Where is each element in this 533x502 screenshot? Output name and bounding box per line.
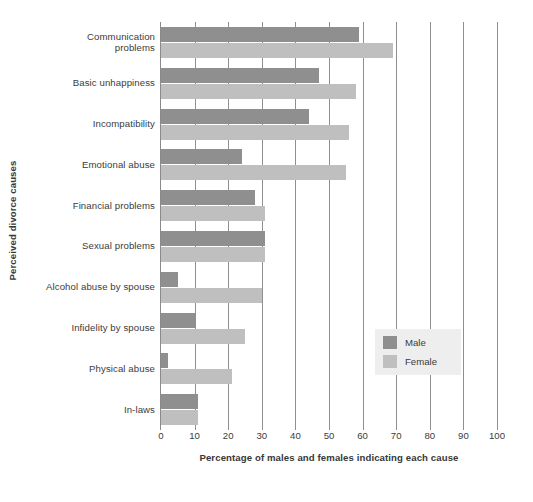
category-label-5: Sexual problems [22, 240, 155, 252]
legend-item-female[interactable]: Female [383, 352, 461, 371]
category-label-1: Basic unhappiness [22, 77, 155, 89]
gridline-100 [497, 22, 498, 430]
bar-female-2 [161, 125, 349, 140]
category-label-line: Infidelity by spouse [22, 322, 155, 334]
x-axis-title: Percentage of males and females indicati… [161, 452, 497, 463]
category-label-3: Emotional abuse [22, 159, 155, 171]
bar-female-8 [161, 369, 232, 384]
x-tick-label-10: 10 [189, 430, 200, 441]
bar-male-8 [161, 353, 168, 368]
x-tick-label-0: 0 [158, 430, 163, 441]
category-label-line: Incompatibility [22, 118, 155, 130]
x-tick-label-50: 50 [324, 430, 335, 441]
category-label-8: Physical abuse [22, 363, 155, 375]
category-label-list: CommunicationproblemsBasic unhappinessIn… [26, 22, 159, 430]
bar-male-7 [161, 313, 195, 328]
bar-male-1 [161, 68, 319, 83]
category-label-line: Financial problems [22, 200, 155, 212]
legend-label-female: Female [405, 356, 437, 367]
x-tick-label-20: 20 [223, 430, 234, 441]
category-label-line: Alcohol abuse by spouse [22, 281, 155, 293]
category-label-4: Financial problems [22, 200, 155, 212]
category-label-9: In-laws [22, 404, 155, 416]
y-axis-title-text: Perceived divorce causes [8, 160, 19, 280]
legend-label-male: Male [405, 337, 426, 348]
x-tick-label-60: 60 [357, 430, 368, 441]
legend-swatch-male [383, 336, 397, 349]
bar-male-5 [161, 231, 265, 246]
bar-male-2 [161, 109, 309, 124]
category-label-line: In-laws [22, 404, 155, 416]
category-label-6: Alcohol abuse by spouse [22, 281, 155, 293]
bar-female-9 [161, 410, 198, 425]
x-tick-label-30: 30 [256, 430, 267, 441]
category-label-line: Physical abuse [22, 363, 155, 375]
category-label-line: Basic unhappiness [22, 77, 155, 89]
x-tick-label-40: 40 [290, 430, 301, 441]
gridline-60 [363, 22, 364, 430]
bar-male-0 [161, 27, 359, 42]
x-tick-label-100: 100 [489, 430, 505, 441]
x-tick-label-90: 90 [458, 430, 469, 441]
x-tick-label-80: 80 [424, 430, 435, 441]
bar-female-0 [161, 43, 393, 58]
bar-female-7 [161, 329, 245, 344]
category-label-line: Emotional abuse [22, 159, 155, 171]
x-axis-tick-labels: 0102030405060708090100 [161, 430, 497, 448]
bar-male-9 [161, 394, 198, 409]
bar-male-3 [161, 149, 242, 164]
legend-swatch-female [383, 355, 397, 368]
category-label-0: Communicationproblems [22, 31, 155, 54]
bar-female-5 [161, 247, 265, 262]
gridline-90 [463, 22, 464, 430]
bar-female-6 [161, 288, 262, 303]
category-label-line: Sexual problems [22, 240, 155, 252]
category-label-line: problems [22, 42, 155, 54]
x-tick-label-70: 70 [391, 430, 402, 441]
category-label-7: Infidelity by spouse [22, 322, 155, 334]
bar-male-4 [161, 190, 255, 205]
category-label-2: Incompatibility [22, 118, 155, 130]
bar-male-6 [161, 272, 178, 287]
bar-female-3 [161, 165, 346, 180]
bar-female-1 [161, 84, 356, 99]
bar-chart: Perceived divorce causes Communicationpr… [0, 0, 533, 502]
legend-item-male[interactable]: Male [383, 333, 461, 352]
category-label-line: Communication [22, 31, 155, 43]
bar-female-4 [161, 206, 265, 221]
chart-legend: MaleFemale [375, 329, 461, 375]
